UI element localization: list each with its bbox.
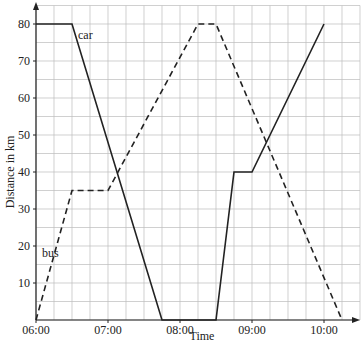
tick-labels: 06:0007:0008:0009:0010:00102030405060708… <box>18 17 338 337</box>
x-axis-label: Time <box>190 329 215 343</box>
y-tick-label: 50 <box>18 128 30 142</box>
y-tick-label: 70 <box>18 54 30 68</box>
y-tick-label: 40 <box>18 165 30 179</box>
y-tick-label: 20 <box>18 239 30 253</box>
x-tick-label: 06:00 <box>22 323 49 337</box>
car-label: car <box>78 28 93 42</box>
grid <box>36 6 360 321</box>
bus-label: bus <box>42 246 59 260</box>
y-tick-label: 10 <box>18 276 30 290</box>
y-tick-label: 80 <box>18 17 30 31</box>
y-axis-label: Distance in km <box>3 135 17 208</box>
y-tick-label: 30 <box>18 202 30 216</box>
y-tick-label: 60 <box>18 91 30 105</box>
annotations: carbus <box>42 28 93 260</box>
distance-time-chart: 06:0007:0008:0009:0010:00102030405060708… <box>0 0 362 346</box>
x-tick-label: 09:00 <box>238 323 265 337</box>
x-tick-label: 07:00 <box>94 323 121 337</box>
x-tick-label: 10:00 <box>310 323 337 337</box>
